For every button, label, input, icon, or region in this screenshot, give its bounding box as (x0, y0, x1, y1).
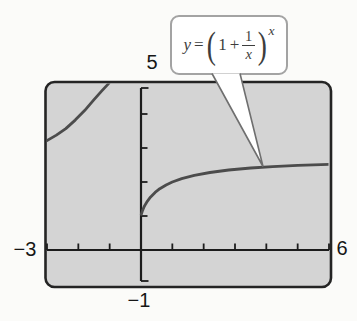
fraction-denominator: x (242, 45, 254, 63)
y-min-label: −1 (128, 289, 151, 312)
formula-fraction: 1 x (242, 28, 254, 62)
plot-window (46, 82, 332, 287)
y-max-label: 5 (146, 51, 157, 74)
formula-y: y (184, 35, 192, 55)
formula-open-paren: ( (206, 26, 215, 64)
formula-exponent: x (268, 23, 274, 39)
formula-plus: + (230, 35, 240, 55)
equation-callout: y = ( 1 + 1 x ) x (170, 15, 288, 75)
fraction-numerator: 1 (245, 28, 252, 45)
formula-one: 1 (218, 35, 227, 55)
figure: 5 −3 6 −1 y = ( 1 + 1 x ) x (0, 0, 357, 321)
x-min-label: −3 (14, 238, 37, 261)
formula-close-paren: ) (258, 26, 267, 64)
x-max-label: 6 (336, 237, 347, 260)
formula-equals: = (194, 35, 204, 55)
